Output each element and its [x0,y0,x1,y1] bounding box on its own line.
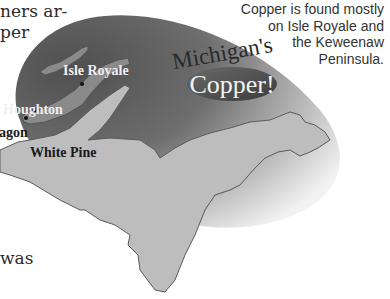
isle-royale-label: Isle Royale [63,63,129,78]
ontonagon-label: agon [0,125,28,140]
houghton-label: Houghton [3,102,63,117]
title-copper: Copper! [189,70,274,99]
houghton-dot [80,82,84,86]
michigan-copper-map: Isle Royale Houghton agon White Pine Mic… [0,0,390,299]
white-pine-label: White Pine [30,145,97,160]
